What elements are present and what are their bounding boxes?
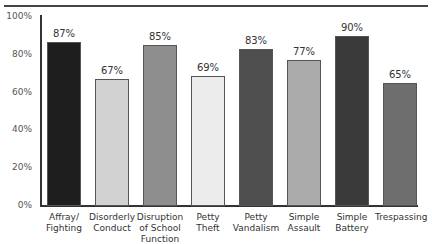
bar [143,45,177,206]
x-category-label: DisorderlyConduct [87,212,137,234]
category-label-line: Trespassing [375,212,425,223]
category-label-line: of School [135,223,185,234]
y-tick-label: 0% [0,200,32,210]
category-label-line: Theft [183,223,233,234]
bar [191,76,225,206]
bar [335,36,369,206]
y-tick-label: 20% [0,162,32,172]
category-label-line: Simple [327,212,377,223]
bar-value-label: 87% [40,28,88,39]
category-label-line: Function [135,234,185,244]
bar [287,60,321,206]
category-label-line: Disruption [135,212,185,223]
category-label-line: Conduct [87,223,137,234]
x-category-label: Affray/Fighting [39,212,89,234]
bar-chart: 0%20%40%60%80%100% 87%Affray/Fighting67%… [0,0,432,244]
bar [239,49,273,206]
category-label-line: Petty [183,212,233,223]
category-label-line: Affray/ [39,212,89,223]
x-category-label: Trespassing [375,212,425,223]
category-label-line: Simple [279,212,329,223]
y-tick-label: 80% [0,49,32,59]
category-label-line: Petty [231,212,281,223]
x-category-label: PettyVandalism [231,212,281,234]
bar-value-label: 77% [280,46,328,57]
y-tick-label: 60% [0,87,32,97]
x-category-label: SimpleAssault [279,212,329,234]
bar [95,79,129,206]
bar-value-label: 85% [136,31,184,42]
x-category-label: PettyTheft [183,212,233,234]
bar-value-label: 90% [328,22,376,33]
bar-value-label: 67% [88,65,136,76]
category-label-line: Vandalism [231,223,281,234]
y-axis-line [40,15,42,207]
bar-value-label: 65% [376,69,424,80]
category-label-line: Fighting [39,223,89,234]
category-label-line: Battery [327,223,377,234]
x-category-label: SimpleBattery [327,212,377,234]
x-category-label: Disruptionof SchoolFunction [135,212,185,244]
category-label-line: Assault [279,223,329,234]
bar-value-label: 83% [232,35,280,46]
bar [383,83,417,206]
bar [47,42,81,206]
y-tick-label: 100% [0,11,32,21]
category-label-line: Disorderly [87,212,137,223]
bar-value-label: 69% [184,62,232,73]
y-tick-label: 40% [0,124,32,134]
